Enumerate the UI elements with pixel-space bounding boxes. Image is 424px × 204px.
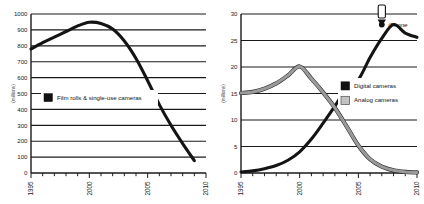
annotation-marker-dot <box>379 22 385 28</box>
x-tick-label: 2000 <box>86 181 93 196</box>
iphone-annotation: iPhone <box>378 5 409 28</box>
y-tick-label: 600 <box>17 74 28 81</box>
x-tick-label: 2005 <box>144 181 151 196</box>
y-tick-label: 100 <box>17 153 28 160</box>
y-tick-label: 25 <box>231 37 238 44</box>
x-tick-labels: 1995200020052010 <box>237 181 420 196</box>
x-tick-marks <box>241 173 417 178</box>
legend: Film rolls & single-use cameras <box>41 90 158 105</box>
y-tick-label: 400 <box>17 106 28 113</box>
x-tick-label: 1995 <box>27 181 34 196</box>
y-tick-label: 1000 <box>14 10 28 17</box>
x-tick-marks <box>31 173 206 178</box>
two-panel-line-chart-figure: 01002003004005006007008009001000(million… <box>0 0 424 204</box>
film-rolls-line-chart: 01002003004005006007008009001000(million… <box>0 0 212 204</box>
y-tick-label: 0 <box>234 169 238 176</box>
x-tick-label: 2010 <box>202 181 209 196</box>
y-axis-title: (millions) <box>11 84 16 103</box>
legend-swatch-film <box>44 94 52 102</box>
digital-vs-analog-line-chart: 051015202530(millions)1995200020052010Di… <box>212 0 424 204</box>
annotation-label-iphone: iPhone <box>388 21 408 28</box>
x-tick-label: 2010 <box>413 181 420 196</box>
legend-swatch-analog-cameras <box>341 96 350 104</box>
y-tick-label: 5 <box>234 143 238 150</box>
y-axis-title: (millions) <box>221 84 226 103</box>
y-tick-label: 500 <box>17 90 28 97</box>
legend-label-digital-cameras: Digital cameras <box>354 82 396 89</box>
y-tick-label: 200 <box>17 137 28 144</box>
legend-swatch-digital-cameras <box>341 82 350 90</box>
y-tick-label: 15 <box>231 90 238 97</box>
y-tick-label: 10 <box>231 116 238 123</box>
legend-label-film: Film rolls & single-use cameras <box>57 94 142 101</box>
y-tick-label: 0 <box>24 169 28 176</box>
x-tick-label: 2005 <box>355 181 362 196</box>
y-tick-label: 800 <box>17 42 28 49</box>
legend-label-analog-cameras: Analog cameras <box>354 96 398 103</box>
phone-icon <box>378 5 385 18</box>
x-tick-labels: 1995200020052010 <box>27 181 209 196</box>
y-tick-label: 30 <box>231 10 238 17</box>
x-tick-label: 1995 <box>237 181 244 196</box>
y-tick-label: 900 <box>17 26 28 33</box>
y-tick-label: 300 <box>17 122 28 129</box>
y-tick-labels: 051015202530 <box>231 10 238 176</box>
left-chart-panel: 01002003004005006007008009001000(million… <box>0 0 212 204</box>
legend: Digital camerasAnalog cameras <box>338 78 418 108</box>
y-tick-label: 700 <box>17 58 28 65</box>
right-chart-panel: 051015202530(millions)1995200020052010Di… <box>212 0 424 204</box>
y-tick-label: 20 <box>231 63 238 70</box>
y-tick-labels: 01002003004005006007008009001000 <box>14 10 28 176</box>
x-tick-label: 2000 <box>296 181 303 196</box>
